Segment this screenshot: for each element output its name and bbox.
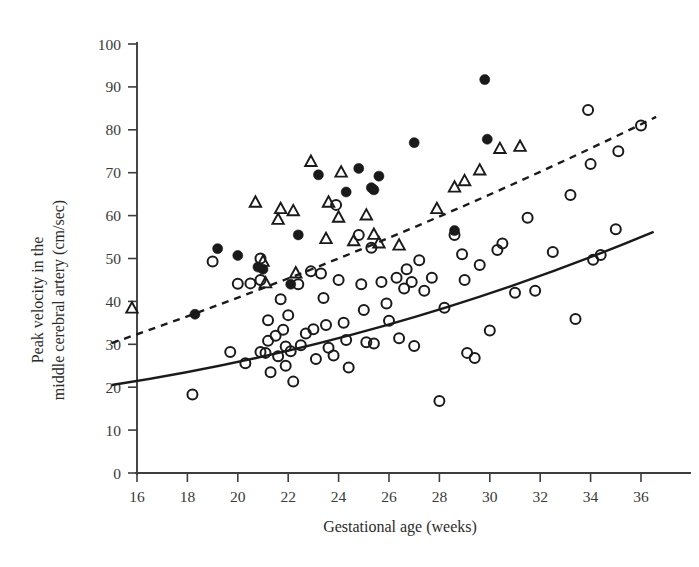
- data-point-filled-circle: [450, 226, 460, 236]
- data-point-open-circle: [321, 320, 331, 330]
- data-point-open-triangle: [431, 203, 442, 213]
- data-point-open-circle: [311, 354, 321, 364]
- data-point-open-circle: [586, 159, 596, 169]
- y-tick-label: 60: [106, 207, 122, 224]
- x-tick-label: 22: [280, 488, 296, 505]
- data-point-filled-circle: [374, 171, 384, 181]
- y-axis-title-group: Peak velocity in the middle cerebral art…: [29, 200, 68, 400]
- y-tick-label: 10: [106, 422, 122, 439]
- solid-reference-line: [112, 232, 654, 385]
- data-point-filled-circle: [354, 163, 364, 173]
- data-point-open-circle: [334, 275, 344, 285]
- y-tick-label: 0: [113, 465, 121, 482]
- data-point-open-triangle: [459, 175, 470, 185]
- data-point-open-circle: [510, 288, 520, 298]
- data-point-open-circle: [394, 333, 404, 343]
- y-tick-label: 90: [106, 78, 122, 95]
- data-point-open-circle: [583, 105, 593, 115]
- data-point-filled-circle: [190, 309, 200, 319]
- dashed-reference-line: [112, 117, 656, 343]
- data-point-open-circle: [409, 341, 419, 351]
- data-point-open-circle: [233, 279, 243, 289]
- data-point-filled-circle: [213, 244, 223, 254]
- data-point-filled-circle: [409, 138, 419, 148]
- data-point-open-circle: [356, 279, 366, 289]
- data-point-open-circle: [414, 255, 424, 265]
- y-axis-title-line2: middle cerebral artery (cm/sec): [50, 200, 68, 400]
- data-point-open-circle: [392, 273, 402, 283]
- data-point-open-circle: [318, 293, 328, 303]
- data-point-open-circle: [283, 310, 293, 320]
- data-point-filled-circle: [233, 250, 243, 260]
- data-point-open-circle: [344, 362, 354, 372]
- x-tick-label: 24: [331, 488, 347, 505]
- data-point-open-triangle: [333, 211, 344, 221]
- x-tick-label: 18: [180, 488, 196, 505]
- data-point-open-triangle: [474, 164, 485, 174]
- data-point-open-triangle: [449, 181, 460, 191]
- data-point-open-circle: [278, 325, 288, 335]
- data-point-open-circle: [460, 275, 470, 285]
- data-point-open-circle: [245, 278, 255, 288]
- data-point-open-circle: [402, 264, 412, 274]
- y-tick-label: 80: [106, 121, 122, 138]
- data-point-open-circle: [316, 269, 326, 279]
- y-axis: 0102030405060708090100: [98, 36, 137, 482]
- data-point-filled-circle: [286, 279, 296, 289]
- x-tick-label: 30: [482, 488, 498, 505]
- data-point-open-triangle: [514, 141, 525, 151]
- y-tick-label: 30: [106, 336, 122, 353]
- data-point-filled-circle: [482, 134, 492, 144]
- data-point-open-circle: [266, 367, 276, 377]
- y-axis-title-line1: Peak velocity in the: [29, 237, 47, 364]
- scatter-plot-svg: Peak velocity in the middle cerebral art…: [0, 0, 699, 567]
- x-tick-label: 20: [230, 488, 246, 505]
- data-point-open-circle: [570, 314, 580, 324]
- data-point-open-circle: [470, 353, 480, 363]
- data-point-open-circle: [485, 326, 495, 336]
- data-point-open-circle: [376, 277, 386, 287]
- data-point-open-triangle: [494, 143, 505, 153]
- chart-figure: Peak velocity in the middle cerebral art…: [0, 0, 699, 567]
- data-point-filled-circle: [369, 185, 379, 195]
- data-point-open-circle: [530, 286, 540, 296]
- data-point-filled-circle: [313, 170, 323, 180]
- data-point-open-circle: [434, 396, 444, 406]
- x-tick-label: 26: [381, 488, 397, 505]
- x-tick-group: 1618202224262830323436: [129, 473, 649, 505]
- data-point-open-circle: [339, 318, 349, 328]
- x-axis-title: Gestational age (weeks): [323, 518, 477, 536]
- data-point-open-circle: [359, 305, 369, 315]
- data-point-open-triangle: [126, 302, 137, 312]
- data-point-open-circle: [329, 350, 339, 360]
- data-point-open-circle: [613, 146, 623, 156]
- x-tick-label: 28: [432, 488, 448, 505]
- data-point-open-circle: [475, 260, 485, 270]
- y-tick-label: 40: [106, 293, 122, 310]
- data-point-open-circle: [288, 377, 298, 387]
- data-point-open-triangle: [361, 209, 372, 219]
- data-point-open-triangle: [393, 239, 404, 249]
- data-point-open-circle: [381, 299, 391, 309]
- y-tick-label: 20: [106, 379, 122, 396]
- data-point-open-circle: [208, 257, 218, 267]
- y-tick-group: 0102030405060708090100: [98, 36, 137, 482]
- data-point-filled-circle: [480, 75, 490, 85]
- data-point-open-circle: [457, 249, 467, 259]
- data-point-open-circle: [407, 277, 417, 287]
- x-tick-label: 34: [583, 488, 599, 505]
- data-point-open-triangle: [335, 166, 346, 176]
- data-point-open-triangle: [275, 203, 286, 213]
- x-tick-label: 36: [633, 488, 649, 505]
- y-tick-label: 70: [106, 164, 122, 181]
- data-point-open-circle: [187, 389, 197, 399]
- data-point-open-circle: [427, 273, 437, 283]
- data-point-open-circle: [548, 247, 558, 257]
- y-tick-label: 50: [106, 250, 122, 267]
- data-point-open-circle: [281, 361, 291, 371]
- data-point-open-triangle: [272, 213, 283, 223]
- data-point-filled-circle: [341, 187, 351, 197]
- data-point-open-circle: [565, 190, 575, 200]
- data-point-open-circle: [523, 213, 533, 223]
- data-point-open-circle: [225, 347, 235, 357]
